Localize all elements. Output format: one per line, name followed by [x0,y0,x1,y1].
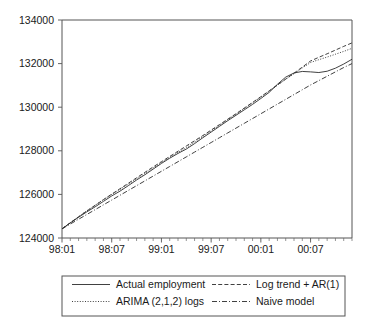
legend-label: Naive model [256,295,314,307]
legend-label: Log trend + AR(1) [256,278,339,290]
y-axis-labels: 124000126000128000130000132000134000 [19,14,54,244]
chart-canvas: 124000126000128000130000132000134000 98:… [0,0,366,323]
y-tick-label: 130000 [19,101,54,113]
y-tick-label: 132000 [19,57,54,69]
data-series-group [62,43,352,229]
series-line-log-trend-ar-1 [62,43,352,229]
x-tick-label: 99:07 [198,243,224,255]
x-tick-label: 98:07 [99,243,125,255]
legend-label: Actual employment [116,278,205,290]
legend: Actual employmentLog trend + AR(1)ARIMA … [62,276,345,316]
x-tick-label: 99:01 [148,243,174,255]
y-tick-label: 128000 [19,144,54,156]
series-line-naive-model [62,64,352,229]
legend-entries: Actual employmentLog trend + AR(1)ARIMA … [72,278,339,307]
y-axis-ticks [58,20,62,238]
legend-label: ARIMA (2,1,2) logs [116,295,204,307]
y-tick-label: 126000 [19,188,54,200]
x-axis-minor-ticks [62,238,352,243]
y-tick-label: 134000 [19,14,54,26]
x-tick-label: 98:01 [49,243,75,255]
x-tick-label: 00:07 [297,243,323,255]
y-tick-label: 124000 [19,232,54,244]
series-line-arima-2-1-2-logs [62,48,352,229]
plot-frame [62,20,352,238]
employment-forecast-chart: 124000126000128000130000132000134000 98:… [0,0,366,323]
x-tick-label: 00:01 [248,243,274,255]
x-axis-labels: 98:0198:0799:0199:0700:0100:07 [49,243,324,255]
